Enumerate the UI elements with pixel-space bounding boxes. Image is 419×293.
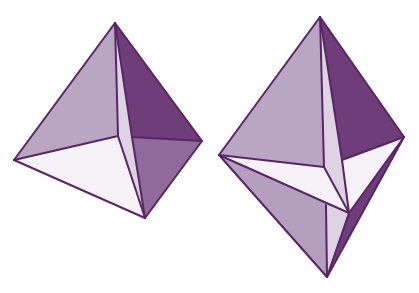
- polyhedra-svg: [0, 0, 419, 293]
- polyhedra-illustration: [0, 0, 419, 293]
- tetrahedron: [14, 23, 202, 218]
- upper-left-face: [219, 17, 324, 167]
- edge-line: [326, 205, 327, 277]
- triangular-bipyramid: [219, 17, 404, 277]
